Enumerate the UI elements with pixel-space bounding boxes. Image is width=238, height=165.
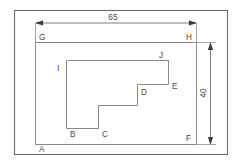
outer-rectangle: [36, 43, 197, 145]
arrow-head-bottom: [208, 137, 213, 145]
dimension-value-height: 40: [198, 88, 208, 98]
dimension-width-65: 65: [35, 12, 197, 44]
vertex-label-F: F: [186, 134, 191, 143]
vertex-label-D: D: [141, 88, 147, 97]
dimension-height-40: 40: [195, 42, 216, 145]
vertex-label-E: E: [172, 82, 178, 91]
vertex-label-G: G: [39, 33, 45, 42]
vertex-label-C: C: [102, 130, 108, 139]
technical-drawing-canvas: 65 40 A B C D E F G H I J: [0, 0, 238, 165]
page-frame: [15, 11, 228, 155]
vertex-label-H: H: [186, 33, 192, 42]
vertex-label-B: B: [70, 130, 76, 139]
dimension-value-width: 65: [108, 12, 118, 22]
inner-stepped-profile: [67, 61, 169, 129]
drawing-svg: 65 40 A B C D E F G H I J: [0, 0, 238, 165]
arrow-head-left: [35, 20, 43, 25]
vertex-label-A: A: [39, 145, 45, 154]
vertex-label-J: J: [159, 51, 163, 60]
arrow-head-right: [189, 20, 197, 25]
vertex-label-I: I: [57, 64, 59, 73]
arrow-head-top: [208, 42, 213, 50]
